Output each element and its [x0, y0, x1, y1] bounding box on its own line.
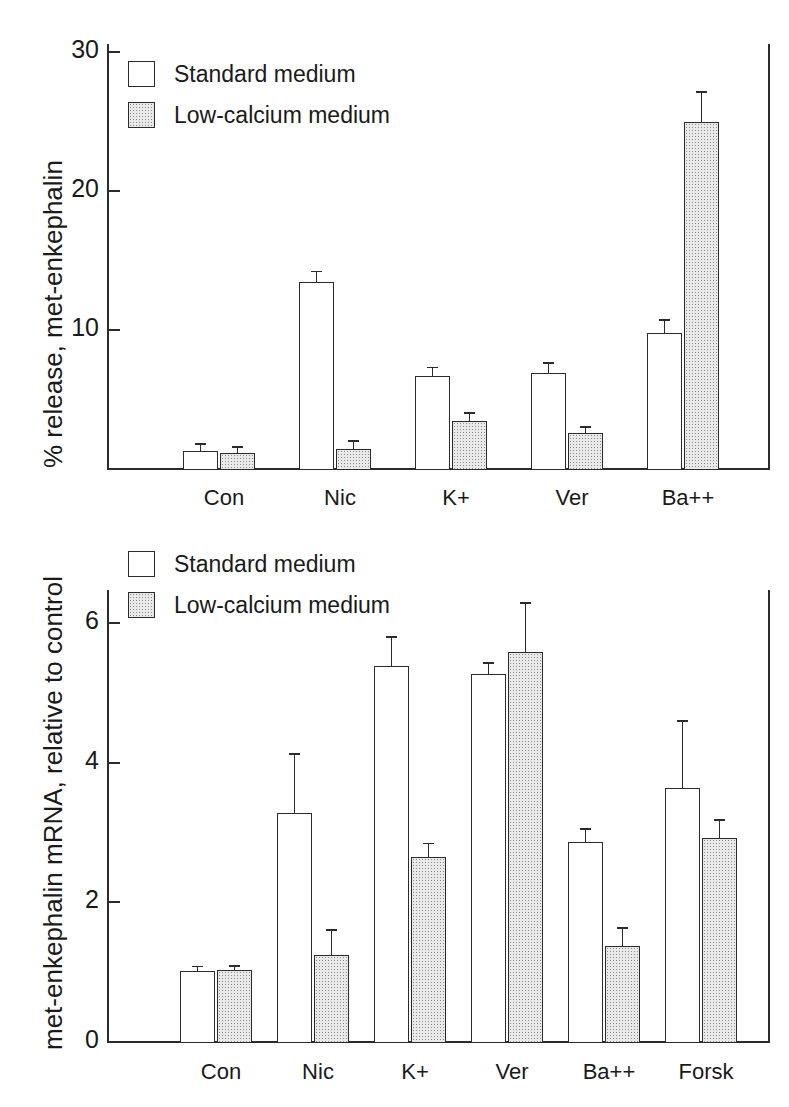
error-bar-line	[391, 636, 393, 666]
bar-standard-ver	[471, 674, 506, 1043]
plot-area-bottom: 6420ConNicK+VerBa++Forsk	[0, 520, 789, 1107]
error-bar-line	[682, 720, 684, 788]
x-axis-tick-label: Ver	[462, 1061, 562, 1083]
y-axis-line	[107, 590, 109, 1043]
x-axis-tick-label: Nic	[268, 1061, 368, 1083]
y-axis-tick-label: 6	[35, 608, 99, 633]
y-axis-line	[107, 44, 109, 470]
error-bar-line	[701, 91, 703, 122]
bar-standard-ver	[531, 373, 566, 470]
error-bar-cap	[192, 966, 203, 968]
error-bar-cap	[696, 91, 707, 93]
plot-area-top: 302010ConNicK+VerBa++	[0, 0, 789, 520]
error-bar-cap	[348, 440, 359, 442]
x-axis-tick-label: K+	[365, 1061, 465, 1083]
error-bar-cap	[677, 720, 688, 722]
y-axis-tick	[109, 190, 120, 192]
bar-lowcalcium-baplusplus	[605, 946, 640, 1043]
x-axis-tick-label: Con	[174, 487, 274, 509]
error-bar-cap	[326, 929, 337, 931]
chart-panel-percent-release: % release, met-enkephalin Standard mediu…	[0, 0, 789, 520]
error-bar-cap	[617, 927, 628, 929]
error-bar-line	[294, 753, 296, 812]
error-bar-line	[525, 602, 527, 652]
y-axis-tick-label: 4	[35, 748, 99, 773]
right-spine	[768, 590, 770, 1043]
error-bar-cap	[311, 271, 322, 273]
error-bar-cap	[580, 828, 591, 830]
y-axis-tick-label: 30	[35, 37, 99, 62]
bar-lowcalcium-con	[220, 453, 255, 470]
bar-lowcalcium-nic	[314, 955, 349, 1043]
error-bar-line	[664, 319, 666, 333]
error-bar-cap	[229, 965, 240, 967]
error-bar-cap	[483, 662, 494, 664]
error-bar-line	[585, 828, 587, 842]
x-axis-tick-label: Ba++	[559, 1061, 659, 1083]
y-axis-tick-label: 2	[35, 887, 99, 912]
bar-lowcalcium-nic	[336, 449, 371, 470]
error-bar-cap	[464, 412, 475, 414]
bar-standard-baplusplus	[568, 842, 603, 1043]
bar-standard-con	[183, 451, 218, 470]
bar-standard-baplusplus	[647, 333, 682, 470]
bar-lowcalcium-kplus	[452, 421, 487, 470]
error-bar-line	[719, 819, 721, 839]
right-spine	[768, 44, 770, 470]
y-axis-tick	[109, 622, 120, 624]
error-bar-cap	[580, 426, 591, 428]
y-axis-tick	[109, 901, 120, 903]
bar-lowcalcium-ver	[508, 652, 543, 1043]
bar-lowcalcium-baplusplus	[684, 122, 719, 470]
error-bar-cap	[289, 753, 300, 755]
bar-standard-forsk	[665, 788, 700, 1043]
bar-standard-con	[180, 971, 215, 1043]
figure-root: % release, met-enkephalin Standard mediu…	[0, 0, 789, 1107]
bar-standard-nic	[299, 282, 334, 470]
error-bar-cap	[423, 843, 434, 845]
bar-lowcalcium-con	[217, 970, 252, 1043]
y-axis-tick	[109, 51, 120, 53]
error-bar-cap	[386, 636, 397, 638]
y-axis-tick	[109, 762, 120, 764]
error-bar-cap	[520, 602, 531, 604]
y-axis-tick-label: 20	[35, 176, 99, 201]
error-bar-cap	[543, 362, 554, 364]
x-axis-tick-label: Con	[171, 1061, 271, 1083]
error-bar-cap	[195, 443, 206, 445]
error-bar-line	[331, 929, 333, 955]
error-bar-line	[428, 843, 430, 857]
chart-panel-mrna-relative: met-enkephalin mRNA, relative to control…	[0, 520, 789, 1107]
error-bar-cap	[714, 819, 725, 821]
bar-standard-kplus	[374, 666, 409, 1043]
y-axis-tick-label: 0	[35, 1027, 99, 1052]
x-axis-tick-label: Ver	[522, 487, 622, 509]
bar-standard-kplus	[415, 376, 450, 470]
error-bar-cap	[232, 446, 243, 448]
x-axis-tick-label: Nic	[290, 487, 390, 509]
bar-lowcalcium-ver	[568, 433, 603, 470]
error-bar-cap	[427, 367, 438, 369]
x-axis-tick-label: Ba++	[638, 487, 738, 509]
error-bar-cap	[659, 319, 670, 321]
bar-lowcalcium-kplus	[411, 857, 446, 1043]
x-axis-tick-label: Forsk	[656, 1061, 756, 1083]
error-bar-line	[622, 927, 624, 946]
y-axis-tick-label: 10	[35, 315, 99, 340]
y-axis-tick	[109, 329, 120, 331]
bar-standard-nic	[277, 813, 312, 1043]
bar-lowcalcium-forsk	[702, 838, 737, 1043]
x-axis-tick-label: K+	[406, 487, 506, 509]
